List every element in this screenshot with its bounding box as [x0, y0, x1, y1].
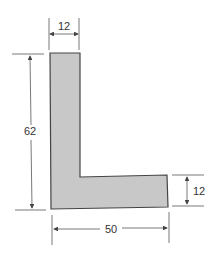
label-top-width: 12: [58, 20, 70, 32]
dimension-right-thickness: 12: [172, 175, 205, 206]
label-height: 62: [24, 125, 36, 137]
dimension-height: 62: [12, 54, 46, 210]
l-section-diagram: 12 62 12 50: [0, 0, 215, 259]
label-bottom-width: 50: [105, 223, 117, 235]
label-right-thickness: 12: [193, 185, 205, 197]
dimension-bottom-width: 50: [52, 212, 169, 245]
dimension-top-width: 12: [49, 18, 79, 50]
l-shape: [50, 53, 168, 209]
